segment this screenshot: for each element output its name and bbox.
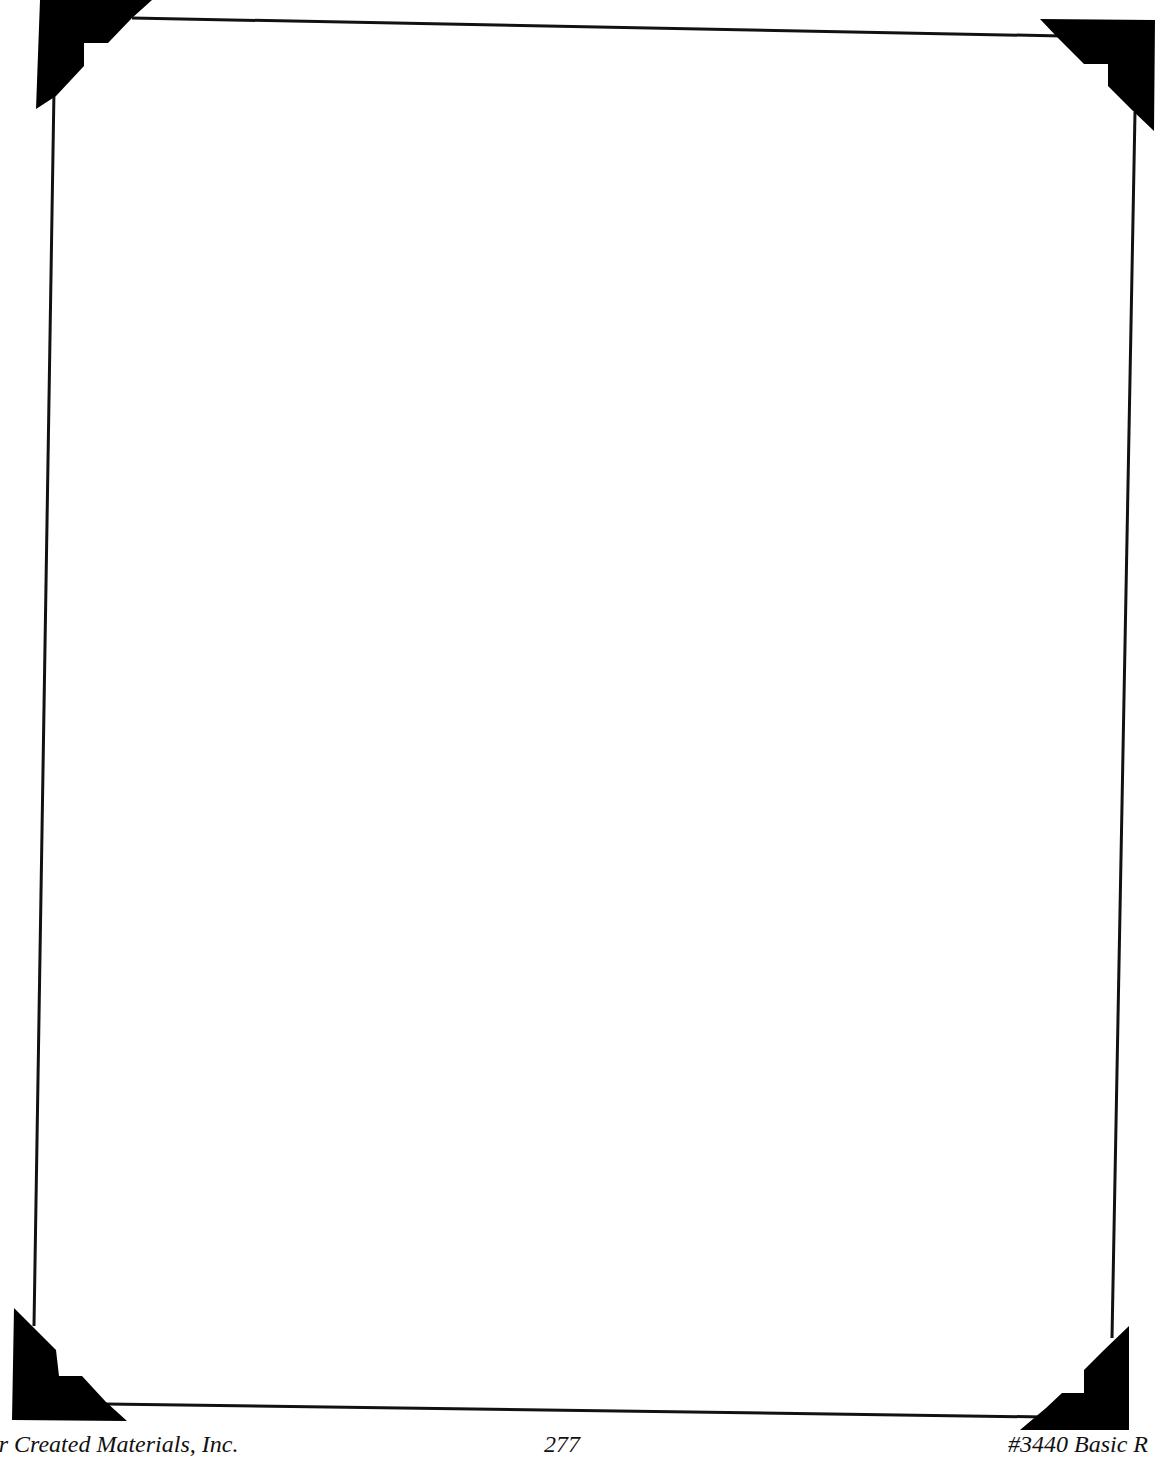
frame-border [34,18,1135,1417]
corner-ornament-top-left [36,0,152,109]
page-frame [0,0,1176,1463]
footer-publisher: er Created Materials, Inc. [0,1432,238,1456]
corner-ornament-bottom-right [1020,1326,1129,1430]
footer-page-number: 277 [544,1432,580,1456]
corner-ornament-top-right [1040,19,1155,131]
footer-product-code: #3440 Basic R [1008,1432,1148,1456]
